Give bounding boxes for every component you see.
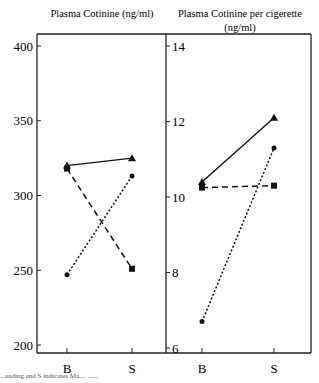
y-tick-label: 200 <box>14 338 34 353</box>
y-tick-label: 300 <box>14 188 34 203</box>
triangle-marker <box>128 154 136 161</box>
y-tick-label: 250 <box>14 263 34 278</box>
square-marker <box>199 185 205 191</box>
x-tick-label: S <box>270 361 277 376</box>
chart-title: (ng/ml) <box>224 22 256 34</box>
y-tick-label: 10 <box>172 190 185 205</box>
chart-canvas: Plasma Cotinine (ng/ml)200250300350400BS… <box>0 0 319 383</box>
circle-marker <box>200 319 205 324</box>
panel-1: Plasma Cotinine (ng/ml)200250300350400BS <box>14 8 167 376</box>
x-tick-label: B <box>198 361 207 376</box>
y-tick-label: 350 <box>14 113 34 128</box>
square-marker <box>271 183 277 189</box>
circle-marker <box>130 174 135 179</box>
chart-title: Plasma Cotinine (ng/ml) <box>50 8 154 20</box>
y-tick-label: 400 <box>14 39 34 54</box>
series-line-circle-dotted <box>202 148 274 322</box>
circle-marker <box>65 272 70 277</box>
square-marker <box>129 266 135 272</box>
series-line-triangle-solid <box>67 158 132 165</box>
square-marker <box>64 166 70 172</box>
series-line-square-dashed <box>202 186 274 188</box>
figure-caption-fragment: ...eading and S indicates Ma.... ...... <box>0 372 98 380</box>
triangle-marker <box>270 114 278 121</box>
y-tick-label: 14 <box>172 39 186 54</box>
series-line-square-dashed <box>67 169 132 269</box>
circle-marker <box>272 145 277 150</box>
panel-2: Plasma Cotinine per cigerette(ng/ml)6810… <box>166 8 311 376</box>
series-line-circle-dotted <box>67 176 132 275</box>
x-tick-label: S <box>128 361 135 376</box>
chart-title: Plasma Cotinine per cigerette <box>178 8 302 19</box>
y-tick-label: 8 <box>172 265 179 280</box>
y-tick-label: 12 <box>172 114 185 129</box>
y-tick-label: 6 <box>172 341 179 356</box>
